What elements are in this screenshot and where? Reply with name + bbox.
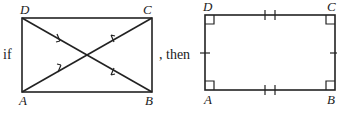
right-angle-A: [205, 81, 214, 90]
right-angle-marks: [205, 15, 335, 90]
right-angle-B: [326, 81, 335, 90]
right-angle-D: [205, 15, 214, 24]
label-C-right: C: [327, 0, 336, 14]
right-rectangle: D C A B: [200, 0, 337, 107]
if-text: if: [3, 47, 12, 62]
right-angle-C: [326, 15, 335, 24]
label-D-right: D: [202, 0, 213, 14]
double-tick-marks: [265, 10, 275, 95]
rectangle-theorem-diagram: if D C A B , then: [0, 0, 337, 115]
label-D-left: D: [19, 2, 30, 17]
label-B-right: B: [327, 92, 335, 107]
label-C-left: C: [143, 2, 152, 17]
left-parallelogram: D C A B: [18, 2, 153, 108]
then-text: , then: [159, 47, 190, 62]
label-A-right: A: [203, 92, 212, 107]
label-B-left: B: [145, 93, 153, 108]
right-outline: [205, 15, 335, 90]
label-A-left: A: [18, 93, 27, 108]
